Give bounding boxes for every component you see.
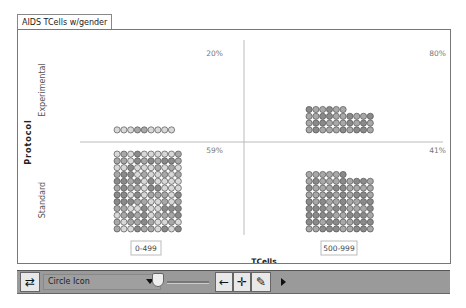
person-icon[interactable]: [340, 212, 346, 218]
person-icon[interactable]: [360, 127, 366, 133]
person-icon[interactable]: [175, 219, 181, 225]
person-icon[interactable]: [326, 199, 332, 205]
person-icon[interactable]: [155, 178, 161, 184]
person-icon[interactable]: [155, 212, 161, 218]
person-icon[interactable]: [141, 185, 147, 191]
x-category-box[interactable]: 0-499: [131, 241, 161, 255]
person-icon[interactable]: [320, 219, 326, 225]
person-icon[interactable]: [306, 205, 312, 211]
person-icon[interactable]: [313, 199, 319, 205]
person-icon[interactable]: [333, 120, 339, 126]
x-category-box[interactable]: 500-999: [321, 241, 357, 255]
person-icon[interactable]: [114, 226, 120, 232]
person-icon[interactable]: [333, 199, 339, 205]
person-icon[interactable]: [155, 165, 161, 171]
person-icon[interactable]: [175, 158, 181, 164]
person-icon[interactable]: [128, 158, 134, 164]
pencil-icon[interactable]: ✎: [251, 272, 271, 292]
person-icon[interactable]: [306, 178, 312, 184]
person-icon[interactable]: [155, 199, 161, 205]
person-icon[interactable]: [114, 219, 120, 225]
person-icon[interactable]: [134, 151, 140, 157]
person-icon[interactable]: [326, 192, 332, 198]
person-icon[interactable]: [141, 178, 147, 184]
person-icon[interactable]: [333, 106, 339, 112]
person-icon[interactable]: [114, 158, 120, 164]
person-icon[interactable]: [114, 185, 120, 191]
person-icon[interactable]: [320, 226, 326, 232]
person-icon[interactable]: [162, 158, 168, 164]
person-icon[interactable]: [354, 226, 360, 232]
person-icon[interactable]: [333, 127, 339, 133]
person-icon[interactable]: [367, 178, 373, 184]
person-icon[interactable]: [367, 113, 373, 119]
person-icon[interactable]: [333, 185, 339, 191]
person-icon[interactable]: [340, 113, 346, 119]
person-icon[interactable]: [121, 151, 127, 157]
chart-tab[interactable]: AIDS TCells w/gender: [17, 14, 112, 30]
person-icon[interactable]: [128, 212, 134, 218]
person-icon[interactable]: [175, 178, 181, 184]
person-icon[interactable]: [141, 165, 147, 171]
person-icon[interactable]: [114, 165, 120, 171]
person-icon[interactable]: [326, 171, 332, 177]
person-icon[interactable]: [168, 127, 174, 133]
person-icon[interactable]: [326, 106, 332, 112]
person-icon[interactable]: [155, 127, 161, 133]
person-icon[interactable]: [121, 199, 127, 205]
person-icon[interactable]: [121, 158, 127, 164]
person-icon[interactable]: [148, 158, 154, 164]
person-icon[interactable]: [148, 171, 154, 177]
person-icon[interactable]: [313, 205, 319, 211]
person-icon[interactable]: [128, 151, 134, 157]
person-icon[interactable]: [134, 212, 140, 218]
person-icon[interactable]: [313, 185, 319, 191]
person-icon[interactable]: [114, 212, 120, 218]
person-icon[interactable]: [114, 192, 120, 198]
person-icon[interactable]: [121, 205, 127, 211]
person-icon[interactable]: [326, 127, 332, 133]
person-icon[interactable]: [367, 226, 373, 232]
person-icon[interactable]: [313, 120, 319, 126]
person-icon[interactable]: [141, 219, 147, 225]
person-icon[interactable]: [354, 185, 360, 191]
person-icon[interactable]: [175, 205, 181, 211]
person-icon[interactable]: [128, 171, 134, 177]
person-icon[interactable]: [168, 171, 174, 177]
person-icon[interactable]: [320, 199, 326, 205]
person-icon[interactable]: [367, 219, 373, 225]
person-icon[interactable]: [175, 171, 181, 177]
person-icon[interactable]: [168, 165, 174, 171]
person-icon[interactable]: [148, 127, 154, 133]
person-icon[interactable]: [367, 199, 373, 205]
person-icon[interactable]: [175, 185, 181, 191]
person-icon[interactable]: [128, 165, 134, 171]
person-icon[interactable]: [148, 199, 154, 205]
person-icon[interactable]: [141, 212, 147, 218]
person-icon[interactable]: [162, 226, 168, 232]
person-icon[interactable]: [340, 127, 346, 133]
person-icon[interactable]: [340, 178, 346, 184]
person-icon[interactable]: [340, 185, 346, 191]
person-icon[interactable]: [168, 192, 174, 198]
person-icon[interactable]: [340, 226, 346, 232]
person-icon[interactable]: [162, 192, 168, 198]
person-icon[interactable]: [306, 106, 312, 112]
person-icon[interactable]: [320, 178, 326, 184]
person-icon[interactable]: [134, 219, 140, 225]
person-icon[interactable]: [354, 127, 360, 133]
person-icon[interactable]: [121, 192, 127, 198]
person-icon[interactable]: [168, 219, 174, 225]
person-icon[interactable]: [320, 171, 326, 177]
person-icon[interactable]: [148, 165, 154, 171]
person-icon[interactable]: [141, 158, 147, 164]
person-icon[interactable]: [306, 185, 312, 191]
person-icon[interactable]: [114, 127, 120, 133]
person-icon[interactable]: [320, 127, 326, 133]
person-icon[interactable]: [168, 212, 174, 218]
person-icon[interactable]: [168, 151, 174, 157]
person-icon[interactable]: [162, 205, 168, 211]
person-icon[interactable]: [313, 178, 319, 184]
person-icon[interactable]: [333, 219, 339, 225]
person-icon[interactable]: [347, 127, 353, 133]
